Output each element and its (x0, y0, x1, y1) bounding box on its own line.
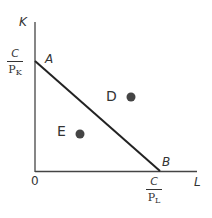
point-b-label: B (162, 156, 170, 168)
x-intercept-denominator: PL (148, 190, 161, 205)
point-d-dot (127, 93, 136, 102)
x-intercept-fraction: C PL (146, 176, 162, 205)
origin-label: 0 (31, 175, 39, 187)
y-intercept-numerator: C (11, 48, 19, 61)
point-e-dot (76, 130, 85, 139)
x-intercept-numerator: C (150, 176, 158, 189)
y-intercept-denominator: PK (8, 62, 21, 77)
isocost-line (35, 61, 160, 171)
x-axis-label: L (194, 176, 201, 188)
y-axis-label: K (19, 16, 27, 28)
point-e-label: E (57, 124, 66, 138)
point-d-label: D (106, 89, 117, 103)
denominator-sub: L (155, 196, 160, 205)
y-intercept-fraction: C PK (7, 48, 23, 77)
denominator-base: P (148, 191, 155, 204)
point-a-label: A (45, 53, 53, 65)
denominator-base: P (8, 63, 15, 76)
denominator-sub: K (16, 68, 22, 77)
